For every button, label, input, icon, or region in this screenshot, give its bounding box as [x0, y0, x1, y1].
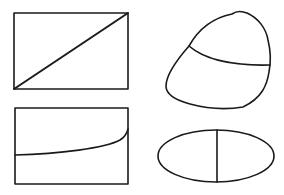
rectangle-curve-outline	[15, 108, 128, 184]
blob-chord-shape	[166, 12, 270, 109]
rectangle-curve-divider	[15, 129, 128, 155]
diagram-svg	[0, 0, 284, 195]
blob-chord-divider	[189, 46, 270, 65]
rectangle-diagonal-divider	[14, 13, 128, 89]
diagram-canvas	[0, 0, 284, 195]
rectangle-curve-shape	[15, 108, 128, 184]
ellipse-vertical-outline	[158, 130, 274, 182]
ellipse-vertical-shape	[158, 130, 274, 182]
rectangle-diagonal-shape	[14, 13, 128, 89]
